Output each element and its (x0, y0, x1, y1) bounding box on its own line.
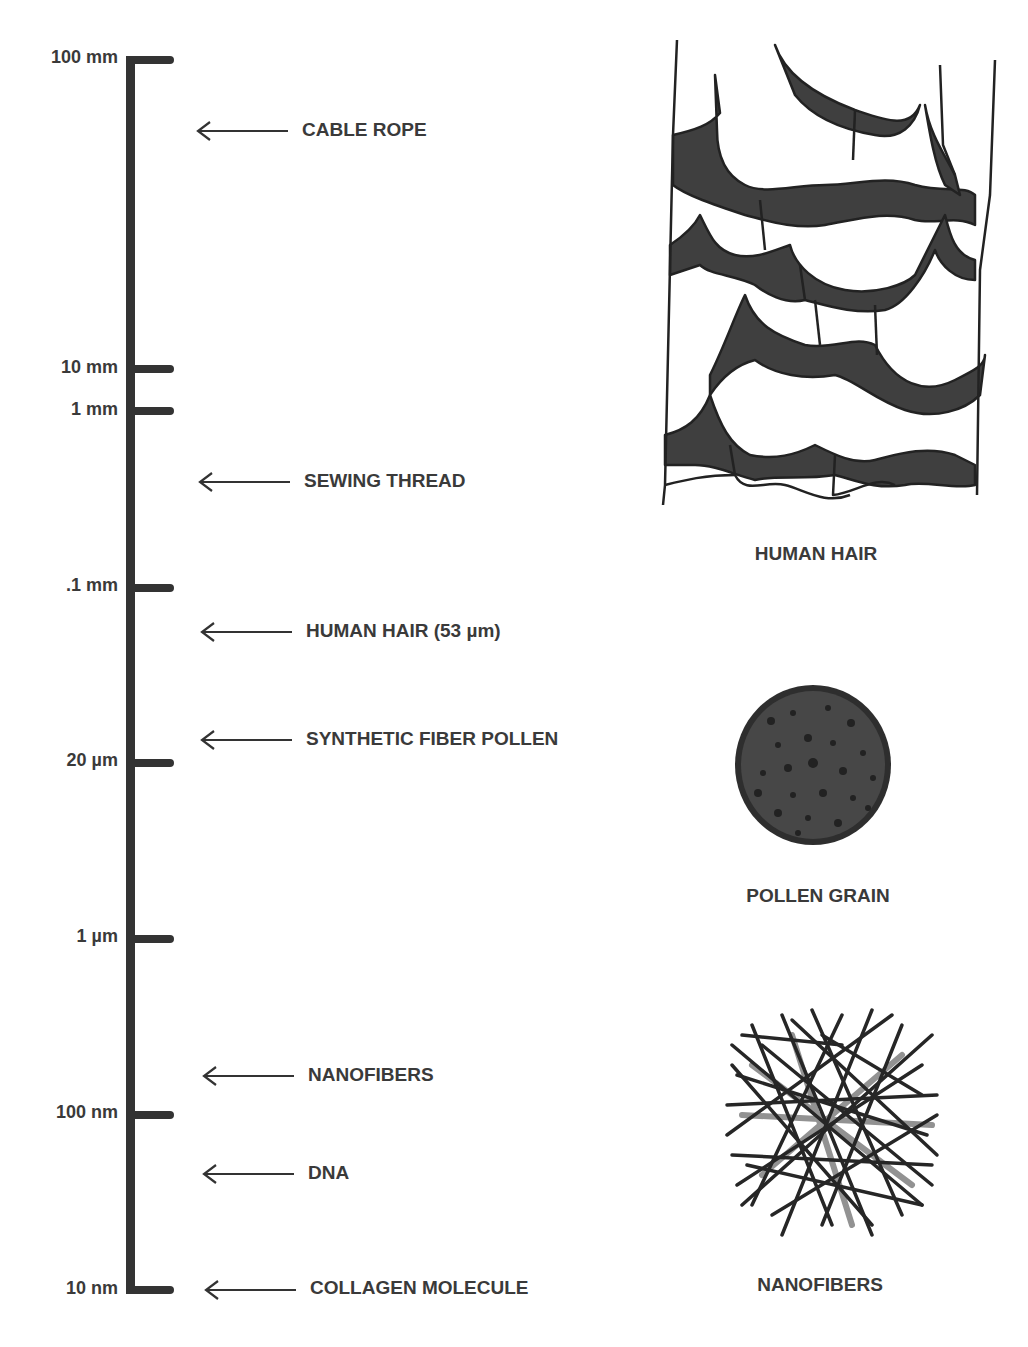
item-synthetic-fiber-pollen: SYNTHETIC FIBER POLLEN (306, 728, 558, 750)
arrow-left-icon (202, 1066, 298, 1086)
pollen-grain-illustration (733, 683, 895, 849)
item-sewing-thread: SEWING THREAD (304, 470, 466, 492)
tick-label-0.1mm: .1 mm (66, 575, 118, 596)
item-human-hair: HUMAN HAIR (53 µm) (306, 620, 501, 642)
tick-100mm (126, 56, 174, 64)
arrow-left-icon (200, 622, 296, 642)
arrow-left-icon (202, 1164, 298, 1184)
tick-1um (126, 935, 174, 943)
tick-label-10nm: 10 nm (66, 1278, 118, 1299)
item-nanofibers: NANOFIBERS (308, 1064, 434, 1086)
tick-label-1mm: 1 mm (71, 399, 118, 420)
tick-label-100nm: 100 nm (56, 1102, 118, 1123)
human-hair-illustration (655, 35, 1005, 515)
arrow-left-icon (204, 1280, 300, 1300)
arrow-left-icon (198, 472, 294, 492)
tick-1mm (126, 407, 174, 415)
tick-label-100mm: 100 mm (51, 47, 118, 68)
caption-human-hair: HUMAN HAIR (686, 543, 946, 565)
tick-0.1mm (126, 584, 174, 592)
caption-pollen-grain: POLLEN GRAIN (688, 885, 948, 907)
tick-20um (126, 759, 174, 767)
item-dna: DNA (308, 1162, 349, 1184)
tick-10mm (126, 365, 174, 373)
tick-10nm (126, 1286, 174, 1294)
item-collagen-molecule: COLLAGEN MOLECULE (310, 1277, 529, 1299)
tick-label-10mm: 10 mm (61, 357, 118, 378)
nanofibers-illustration (722, 1005, 944, 1240)
arrow-left-icon (196, 121, 292, 141)
tick-label-1um: 1 µm (77, 926, 118, 947)
scale-axis (126, 56, 135, 1294)
tick-label-20um: 20 µm (67, 750, 118, 771)
arrow-left-icon (200, 730, 296, 750)
item-cable-rope: CABLE ROPE (302, 119, 427, 141)
caption-nanofibers: NANOFIBERS (690, 1274, 950, 1296)
tick-100nm (126, 1111, 174, 1119)
